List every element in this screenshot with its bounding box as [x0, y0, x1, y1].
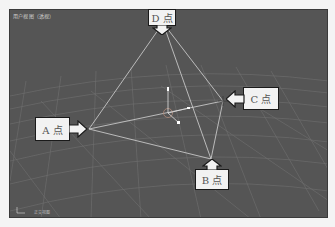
pyramid-edges [89, 23, 223, 159]
viewport-status: 正交视图 [34, 209, 50, 215]
callout-b: B 点 [195, 169, 229, 190]
arrow-up-icon [202, 159, 222, 170]
callout-a-label: A 点 [42, 122, 62, 137]
callout-c: C 点 [243, 87, 279, 110]
3d-viewport[interactable]: 用户视图（透视） 正交视图 [9, 9, 328, 218]
arrow-left-icon [226, 90, 245, 108]
callout-c-label: C 点 [251, 91, 272, 106]
transform-gizmo-icon [164, 87, 191, 124]
callout-b-label: B 点 [202, 172, 223, 187]
viewport-label[interactable]: 用户视图（透视） [13, 12, 55, 19]
callout-d: D 点 [148, 9, 176, 26]
callout-a: A 点 [35, 117, 70, 141]
scene-canvas[interactable] [10, 10, 328, 218]
arrow-down-icon [152, 25, 172, 35]
arrow-right-icon [69, 120, 88, 138]
callout-d-label: D 点 [151, 10, 172, 25]
